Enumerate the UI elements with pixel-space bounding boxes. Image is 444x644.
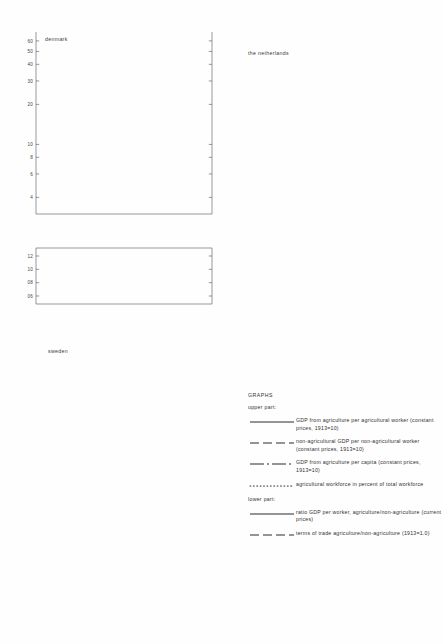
legend-entry-nonagri-gdp-worker: non-agricultural GDP per non-agricultura… <box>248 438 444 453</box>
legend-entry-label: terms of trade agriculture/non-agricultu… <box>296 530 430 538</box>
y-axis-label: 10 <box>27 142 33 147</box>
line-key-dotted-icon <box>248 482 296 490</box>
y-axis-label: 6 <box>30 172 33 177</box>
legend-upper-part-label: upper part: <box>248 404 444 410</box>
legend-entry-gdp-agri-capita: GDP from agriculture per capita (constan… <box>248 459 444 474</box>
legend-entry-label: non-agricultural GDP per non-agricultura… <box>296 438 444 453</box>
plot-denmark: 60504030201086412100806 <box>0 22 222 314</box>
legend-heading: GRAPHS <box>248 392 444 398</box>
line-key-dashed-icon <box>248 531 296 539</box>
line-key-dashed-icon <box>248 439 296 447</box>
legend-entry-terms-of-trade: terms of trade agriculture/non-agricultu… <box>248 530 444 539</box>
y-axis-label: 4 <box>30 195 33 200</box>
legend-entry-label: GDP from agriculture per capita (constan… <box>296 459 444 474</box>
chart-denmark: denmark 60504030201086412100806 <box>0 22 222 314</box>
legend-entry-ratio-gdp-per-worker: ratio GDP per worker, agriculture/non-ag… <box>248 509 444 524</box>
line-key-solid-icon <box>248 510 296 518</box>
y-axis-label: 30 <box>27 79 33 84</box>
chart-title-netherlands: the netherlands <box>248 50 289 56</box>
chart-title-denmark: denmark <box>45 36 68 42</box>
line-key-solid-icon <box>248 418 296 426</box>
plot-netherlands <box>222 22 444 314</box>
figure-page: denmark 60504030201086412100806 the neth… <box>0 0 444 644</box>
legend-entry-label: agricultural workforce in percent of tot… <box>296 481 423 489</box>
chart-sweden: sweden <box>0 330 222 622</box>
line-key-dashdot-icon <box>248 460 296 468</box>
y-axis-label: 10 <box>27 267 33 272</box>
legend: GRAPHS upper part: GDP from agriculture … <box>248 392 444 545</box>
y-axis-label: 08 <box>27 280 33 285</box>
y-axis-label: 50 <box>27 49 33 54</box>
legend-lower-part-label: lower part: <box>248 496 444 502</box>
chart-title-sweden: sweden <box>48 348 68 354</box>
legend-entry-label: ratio GDP per worker, agriculture/non-ag… <box>296 509 444 524</box>
y-axis-label: 40 <box>27 62 33 67</box>
plot-sweden <box>0 330 222 622</box>
legend-entry-label: GDP from agriculture per agricultural wo… <box>296 417 444 432</box>
y-axis-label: 06 <box>27 294 33 299</box>
legend-entry-gdp-agri-worker: GDP from agriculture per agricultural wo… <box>248 417 444 432</box>
y-axis-label: 12 <box>27 254 33 259</box>
legend-entry-agri-workforce-percent: agricultural workforce in percent of tot… <box>248 481 444 490</box>
chart-netherlands: the netherlands <box>222 22 444 314</box>
y-axis-label: 20 <box>27 102 33 107</box>
y-axis-label: 8 <box>30 155 33 160</box>
y-axis-label: 60 <box>27 39 33 44</box>
